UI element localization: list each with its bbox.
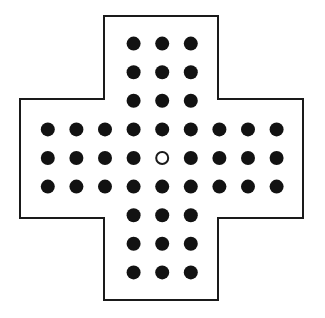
peg[interactable]: [184, 151, 198, 165]
peg[interactable]: [184, 237, 198, 251]
peg[interactable]: [155, 94, 169, 108]
peg[interactable]: [41, 151, 55, 165]
peg[interactable]: [212, 122, 226, 136]
peg[interactable]: [69, 180, 83, 194]
peg[interactable]: [155, 37, 169, 51]
peg[interactable]: [41, 180, 55, 194]
peg[interactable]: [127, 265, 141, 279]
peg[interactable]: [127, 237, 141, 251]
peg[interactable]: [69, 122, 83, 136]
peg[interactable]: [127, 37, 141, 51]
peg[interactable]: [184, 180, 198, 194]
peg[interactable]: [270, 122, 284, 136]
peg[interactable]: [241, 122, 255, 136]
peg[interactable]: [41, 122, 55, 136]
peg[interactable]: [241, 180, 255, 194]
peg[interactable]: [127, 122, 141, 136]
peg[interactable]: [184, 265, 198, 279]
peg[interactable]: [127, 151, 141, 165]
peg[interactable]: [98, 151, 112, 165]
peg[interactable]: [155, 265, 169, 279]
peg[interactable]: [98, 122, 112, 136]
peg-solitaire-figure: [0, 0, 325, 318]
peg[interactable]: [184, 94, 198, 108]
peg[interactable]: [212, 180, 226, 194]
peg[interactable]: [155, 122, 169, 136]
peg[interactable]: [184, 37, 198, 51]
peg[interactable]: [184, 208, 198, 222]
peg[interactable]: [155, 65, 169, 79]
peg[interactable]: [127, 180, 141, 194]
peg[interactable]: [127, 208, 141, 222]
peg[interactable]: [127, 94, 141, 108]
peg[interactable]: [241, 151, 255, 165]
peg-solitaire-board[interactable]: [0, 0, 325, 318]
peg[interactable]: [155, 208, 169, 222]
peg[interactable]: [127, 65, 141, 79]
peg[interactable]: [270, 180, 284, 194]
peg[interactable]: [212, 151, 226, 165]
peg[interactable]: [69, 151, 83, 165]
peg[interactable]: [155, 180, 169, 194]
peg[interactable]: [155, 237, 169, 251]
peg[interactable]: [184, 65, 198, 79]
peg[interactable]: [184, 122, 198, 136]
peg[interactable]: [98, 180, 112, 194]
peg[interactable]: [270, 151, 284, 165]
empty-hole[interactable]: [156, 152, 168, 164]
